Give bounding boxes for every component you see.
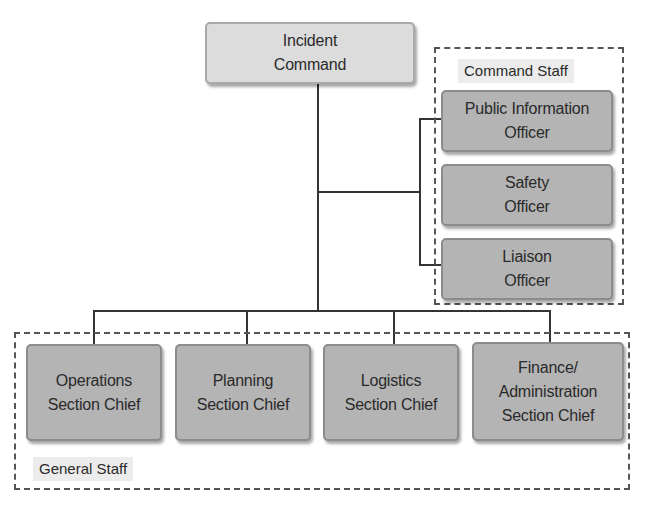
incident-command-node: Incident Command <box>205 22 415 84</box>
public-information-officer-node: Public Information Officer <box>441 90 613 152</box>
planning-section-chief-node: Planning Section Chief <box>175 344 311 441</box>
connector-command-staff-horizontal <box>317 191 420 193</box>
connector-general-staff-horizontal <box>93 310 550 312</box>
liaison-officer-node: Liaison Officer <box>441 238 613 300</box>
safety-officer-node: Safety Officer <box>441 164 613 226</box>
general-staff-label: General Staff <box>33 457 133 481</box>
finance-administration-section-chief-node: Finance/ Administration Section Chief <box>472 342 624 441</box>
connector-main-vertical <box>317 84 319 311</box>
command-staff-label: Command Staff <box>458 59 574 83</box>
connector-command-staff-bracket <box>419 118 421 266</box>
operations-section-chief-node: Operations Section Chief <box>26 344 162 441</box>
logistics-section-chief-node: Logistics Section Chief <box>323 344 459 441</box>
